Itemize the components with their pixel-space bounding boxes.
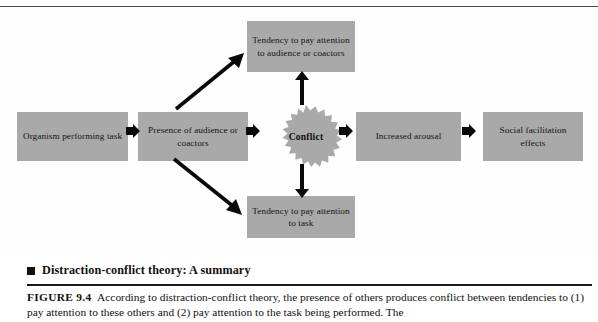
figure-diagram-area: Organism performing task Presence of aud… xyxy=(0,7,598,252)
arrow-tendency-audience-to-conflict xyxy=(294,71,310,105)
figure-number-label: FIGURE 9.4 xyxy=(27,291,91,303)
caption-title-row: Distraction-conflict theory: A summary xyxy=(27,263,251,278)
figure-page: Organism performing task Presence of aud… xyxy=(0,0,598,322)
flow-box-organism-label: Organism performing task xyxy=(22,130,123,143)
arrow-presence-to-tendency-audience xyxy=(172,47,248,113)
flow-box-tendency-task-label: Tendency to pay attention to task xyxy=(252,205,350,230)
flow-box-increased-arousal: Increased arousal xyxy=(356,112,461,161)
arrow-organism-to-presence xyxy=(126,124,140,138)
flow-box-tendency-audience-label: Tendency to pay attention to audience or… xyxy=(252,34,350,59)
caption-divider-rule xyxy=(27,284,592,286)
caption-title: Distraction-conflict theory: A summary xyxy=(42,263,251,278)
flow-box-organism: Organism performing task xyxy=(17,112,128,161)
caption-body: FIGURE 9.4 According to distraction-conf… xyxy=(27,290,592,320)
arrow-presence-to-tendency-task xyxy=(170,155,246,221)
flow-box-tendency-task: Tendency to pay attention to task xyxy=(247,196,355,238)
arrow-arousal-to-social-facilitation xyxy=(462,124,476,138)
conflict-starburst: Conflict xyxy=(270,105,342,167)
figure-caption-block: Distraction-conflict theory: A summary F… xyxy=(0,253,598,322)
filled-square-icon xyxy=(27,267,35,275)
arrow-presence-to-conflict xyxy=(246,124,260,138)
flow-box-social-facilitation: Social facilitation effects xyxy=(483,112,583,161)
flow-box-presence-label: Presence of audience or coactors xyxy=(143,124,243,149)
flow-box-tendency-audience: Tendency to pay attention to audience or… xyxy=(247,21,355,72)
flow-box-social-facilitation-label: Social facilitation effects xyxy=(488,124,578,149)
flow-box-increased-arousal-label: Increased arousal xyxy=(361,130,456,143)
caption-body-line1-text: According to distraction-conflict theory… xyxy=(91,291,505,303)
arrow-conflict-to-tendency-task xyxy=(294,164,310,198)
flow-box-presence: Presence of audience or coactors xyxy=(138,112,248,161)
arrow-conflict-to-arousal xyxy=(339,124,353,138)
conflict-starburst-label: Conflict xyxy=(270,105,342,167)
